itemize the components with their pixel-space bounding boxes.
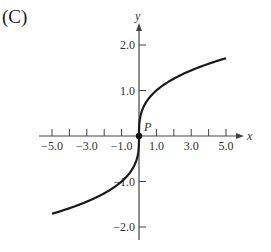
x-tick-label: 5.0 (219, 139, 234, 153)
x-tick-label: 3.0 (184, 139, 199, 153)
y-tick-label: 2.0 (120, 38, 135, 52)
cube-root-plot: xy −5.0−3.0−1.01.03.05.02.01.0−1.0−2.0 P (0, 0, 271, 252)
x-tick-label: −5.0 (41, 139, 63, 153)
y-tick-label: −2.0 (113, 220, 135, 234)
x-tick-label: −3.0 (76, 139, 98, 153)
x-axis-label: x (246, 129, 253, 143)
x-tick-label: −1.0 (111, 139, 133, 153)
y-axis-arrow-icon (136, 23, 142, 31)
x-axis-arrow-icon (236, 133, 244, 139)
point-p-marker (136, 133, 142, 139)
x-tick-label: 1.0 (149, 139, 164, 153)
y-axis-label: y (134, 9, 141, 23)
y-tick-label: 1.0 (120, 84, 135, 98)
point-p-label: P (143, 120, 152, 134)
